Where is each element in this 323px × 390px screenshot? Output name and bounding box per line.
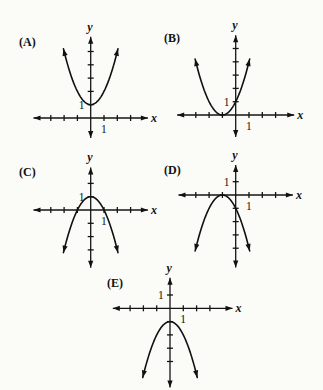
x-unit-label: 1	[101, 123, 107, 135]
x-unit-label: 1	[101, 215, 107, 227]
y-unit-label: 1	[158, 289, 164, 301]
curve-right-arrow-icon	[114, 245, 119, 252]
x-unit-label: 1	[246, 200, 252, 212]
curve-left-arrow-icon	[63, 49, 68, 56]
choice-label: (A)	[19, 35, 36, 49]
curve-right-arrow-icon	[245, 59, 250, 66]
y-axis-up-arrow-icon	[88, 37, 93, 44]
y-axis-up-arrow-icon	[167, 278, 172, 285]
y-axis-down-arrow-icon	[88, 131, 93, 138]
y-axis-down-arrow-icon	[233, 260, 238, 267]
y-axis-down-arrow-icon	[88, 261, 93, 268]
answer-choices-figure: (A)yx11(B)yx11(C)yx11(D)yx11(E)yx11	[0, 0, 323, 390]
x-axis-left-arrow-icon	[34, 207, 41, 212]
x-axis-left-arrow-icon	[179, 192, 186, 197]
y-unit-label: 1	[79, 191, 85, 203]
graph-e: (E)yx11	[107, 261, 242, 388]
curve-left-arrow-icon	[142, 370, 147, 377]
y-unit-label: 1	[79, 99, 85, 111]
graph-d: (D)yx11	[164, 148, 302, 267]
y-axis-label: y	[165, 261, 173, 275]
parabola-curve	[195, 59, 250, 115]
y-axis-down-arrow-icon	[233, 130, 238, 137]
parabola-curve	[195, 195, 250, 251]
y-unit-label: 1	[224, 176, 230, 188]
y-axis-down-arrow-icon	[167, 380, 172, 387]
curve-right-arrow-icon	[193, 370, 198, 377]
curve-right-arrow-icon	[245, 243, 250, 250]
x-axis-right-arrow-icon	[141, 115, 148, 120]
x-unit-label: 1	[246, 120, 252, 132]
x-axis-right-arrow-icon	[287, 112, 294, 117]
x-axis-label: x	[296, 108, 303, 122]
y-axis-up-arrow-icon	[233, 35, 238, 42]
y-axis-up-arrow-icon	[233, 165, 238, 172]
choice-label: (D)	[164, 163, 181, 177]
x-axis-label: x	[150, 111, 157, 125]
y-axis-label: y	[85, 20, 93, 34]
x-axis-left-arrow-icon	[177, 112, 184, 117]
x-axis-right-arrow-icon	[141, 207, 148, 212]
choice-label: (C)	[19, 165, 36, 179]
y-axis-label: y	[230, 148, 238, 162]
y-axis-up-arrow-icon	[88, 167, 93, 174]
curve-left-arrow-icon	[194, 59, 199, 66]
y-axis-label: y	[230, 18, 238, 32]
choice-label: (E)	[107, 276, 123, 290]
x-axis-label: x	[295, 188, 302, 202]
graph-b: (B)yx11	[164, 18, 303, 137]
graph-a: (A)yx11	[19, 20, 157, 138]
x-axis-left-arrow-icon	[34, 115, 41, 120]
curve-left-arrow-icon	[63, 245, 68, 252]
graphs-canvas: (A)yx11(B)yx11(C)yx11(D)yx11(E)yx11	[0, 0, 323, 390]
curve-left-arrow-icon	[194, 243, 199, 250]
graph-c: (C)yx11	[19, 150, 157, 267]
x-axis-left-arrow-icon	[113, 306, 120, 311]
x-axis-label: x	[235, 301, 242, 315]
choice-label: (B)	[164, 31, 180, 45]
y-unit-label: 1	[224, 96, 230, 108]
x-unit-label: 1	[180, 313, 186, 325]
x-axis-right-arrow-icon	[286, 192, 293, 197]
x-axis-label: x	[150, 203, 157, 217]
x-axis-right-arrow-icon	[226, 306, 233, 311]
y-axis-label: y	[85, 150, 93, 164]
curve-right-arrow-icon	[114, 49, 119, 56]
